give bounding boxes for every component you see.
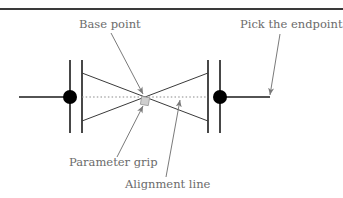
- pick-endpoint-label: Pick the endpoint: [240, 17, 343, 31]
- alignment-line-leader-arrow: [166, 100, 180, 177]
- right-endpoint-dot: [213, 90, 227, 104]
- base-point-leader-arrow: [111, 33, 143, 94]
- base-point-label: Base point: [79, 17, 141, 31]
- parameter-grip-label: Parameter grip: [69, 155, 158, 169]
- pick-endpoint-leader-arrow: [270, 34, 280, 95]
- diagram-svg: Base point Pick the endpoint Parameter g…: [0, 0, 343, 198]
- alignment-line-label: Alignment line: [124, 177, 211, 191]
- parameter-grip-leader-arrow: [117, 106, 143, 157]
- parameter-grip[interactable]: [140, 96, 149, 105]
- diagram-canvas: Base point Pick the endpoint Parameter g…: [0, 0, 343, 198]
- left-endpoint-dot: [63, 90, 77, 104]
